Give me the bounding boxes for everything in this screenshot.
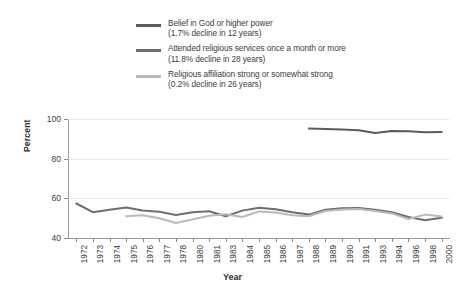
legend-item: Belief in God or higher power(1.7% decli…: [136, 18, 436, 38]
x-tick: [126, 238, 127, 242]
legend-color-swatch: [136, 75, 161, 78]
x-tick: [76, 238, 77, 242]
x-axis-title: Year: [0, 272, 465, 282]
x-tick: [209, 238, 210, 242]
x-tick-label: 1984: [246, 245, 255, 263]
x-tick: [242, 238, 243, 242]
y-tick: [64, 238, 68, 239]
legend-series-note: (1.7% decline in 12 years): [168, 28, 273, 38]
x-tick-label: 1976: [146, 245, 155, 263]
y-gridline: [68, 198, 450, 199]
x-tick: [408, 238, 409, 242]
x-tick-label: 1981: [213, 245, 222, 263]
x-tick-label: 1974: [113, 245, 122, 263]
x-tick-label: 1998: [429, 245, 438, 263]
y-gridline: [68, 119, 450, 120]
legend-series-note: (0.2% decline in 26 years): [168, 79, 333, 89]
legend-color-swatch: [136, 24, 161, 27]
x-tick-label: 1993: [379, 245, 388, 263]
x-tick: [392, 238, 393, 242]
x-tick: [309, 238, 310, 242]
x-tick-label: 1994: [395, 245, 404, 263]
legend-series-name: Religious affiliation strong or somewhat…: [168, 69, 333, 79]
x-tick-label: 1987: [296, 245, 305, 263]
chart-container: Belief in God or higher power(1.7% decli…: [0, 0, 465, 297]
x-tick-label: 1977: [163, 245, 172, 263]
series-lines: [68, 119, 450, 238]
y-axis-title: Percent: [22, 119, 32, 152]
x-tick: [425, 238, 426, 242]
x-tick-label: 1989: [329, 245, 338, 263]
legend-series-note: (11.8% decline in 28 years): [168, 54, 346, 64]
x-tick: [259, 238, 260, 242]
x-tick-label: 1980: [196, 245, 205, 263]
y-tick-label: 40: [52, 233, 61, 243]
y-tick-label: 100: [47, 114, 61, 124]
x-tick: [176, 238, 177, 242]
legend-item: Attended religious services once a month…: [136, 43, 436, 63]
legend-series-name: Attended religious services once a month…: [168, 43, 346, 53]
x-tick: [276, 238, 277, 242]
plot-area: 4060801001972197319741975197619771978198…: [68, 119, 450, 238]
x-tick-label: 1985: [263, 245, 272, 263]
y-tick-label: 60: [52, 193, 61, 203]
legend-label: Religious affiliation strong or somewhat…: [168, 69, 333, 89]
x-tick-label: 1988: [312, 245, 321, 263]
x-tick-label: 2000: [445, 245, 454, 263]
legend-label: Belief in God or higher power(1.7% decli…: [168, 18, 273, 38]
x-tick: [193, 238, 194, 242]
x-tick-label: 1996: [412, 245, 421, 263]
y-tick-label: 80: [52, 154, 61, 164]
x-tick: [325, 238, 326, 242]
x-tick-label: 1983: [229, 245, 238, 263]
x-tick: [143, 238, 144, 242]
x-tick: [93, 238, 94, 242]
x-tick-label: 1972: [80, 245, 89, 263]
x-tick: [359, 238, 360, 242]
x-tick: [375, 238, 376, 242]
legend-color-swatch: [136, 49, 161, 52]
x-tick-label: 1978: [179, 245, 188, 263]
x-tick-label: 1990: [346, 245, 355, 263]
x-tick-label: 1986: [279, 245, 288, 263]
x-tick-label: 1975: [130, 245, 139, 263]
chart-legend: Belief in God or higher power(1.7% decli…: [136, 18, 436, 94]
x-tick: [292, 238, 293, 242]
legend-label: Attended religious services once a month…: [168, 43, 346, 63]
legend-series-name: Belief in God or higher power: [168, 18, 273, 28]
x-tick: [110, 238, 111, 242]
x-tick: [226, 238, 227, 242]
y-tick: [64, 119, 68, 120]
series-line: [309, 129, 442, 134]
x-tick: [442, 238, 443, 242]
x-tick-label: 1973: [96, 245, 105, 263]
x-tick: [159, 238, 160, 242]
y-gridline: [68, 159, 450, 160]
x-tick-label: 1991: [362, 245, 371, 263]
y-tick: [64, 159, 68, 160]
legend-item: Religious affiliation strong or somewhat…: [136, 69, 436, 89]
x-tick: [342, 238, 343, 242]
y-tick: [64, 198, 68, 199]
